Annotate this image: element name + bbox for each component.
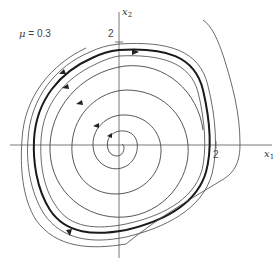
arrow-icon bbox=[76, 100, 83, 105]
limit-cycle bbox=[34, 49, 210, 232]
inner-approach-trajectory bbox=[41, 56, 205, 227]
parameter-label: μ = 0.3 bbox=[19, 28, 51, 39]
x2-tick-label: 2 bbox=[108, 28, 114, 39]
x1-axis-label: x1 bbox=[264, 148, 274, 161]
arrow-icon bbox=[93, 123, 99, 128]
x2-axis-subscript: 2 bbox=[128, 11, 132, 19]
phase-portrait bbox=[0, 0, 280, 274]
x2-axis-label: x2 bbox=[122, 6, 132, 19]
x1-tick-label: 2 bbox=[213, 149, 219, 160]
x1-axis-subscript: 1 bbox=[270, 153, 274, 161]
direction-arrows bbox=[59, 49, 139, 236]
mu-value: = 0.3 bbox=[28, 28, 51, 39]
arrow-icon bbox=[59, 69, 66, 74]
inner-spiral-trajectory bbox=[50, 66, 203, 218]
mu-symbol: μ bbox=[19, 28, 26, 39]
